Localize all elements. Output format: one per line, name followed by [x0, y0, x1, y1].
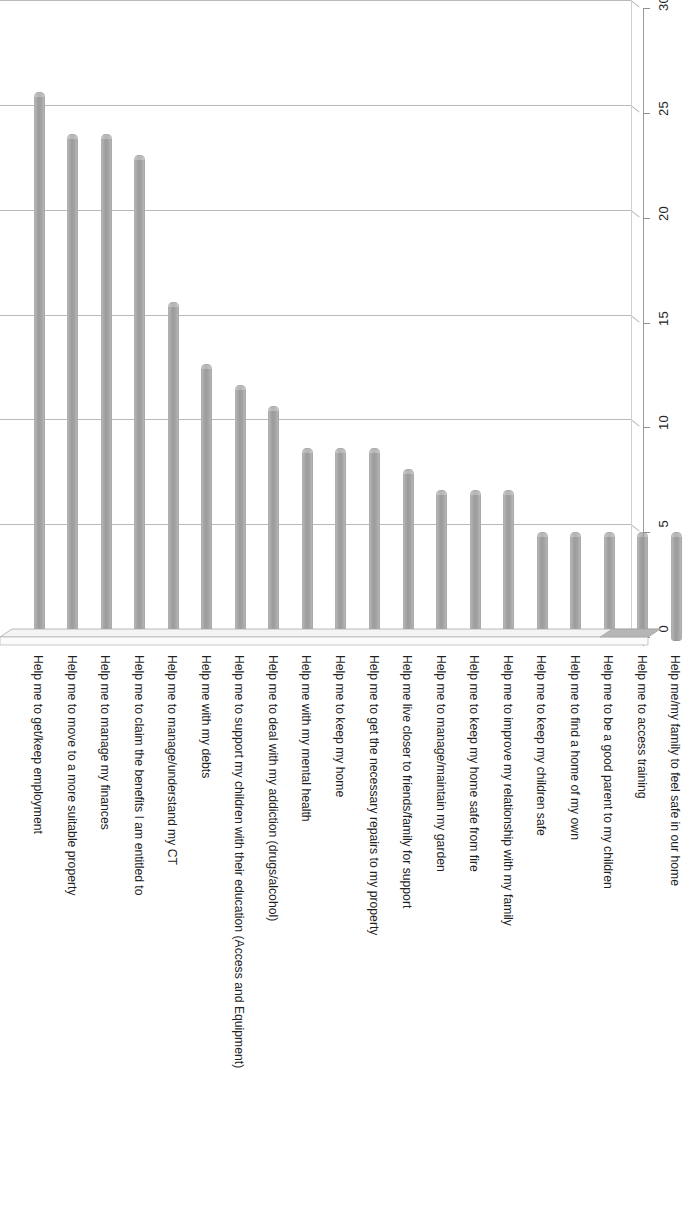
- bar: [604, 532, 615, 641]
- bar: [101, 134, 112, 641]
- gridline-5: [0, 524, 631, 525]
- category-label: Help me to manage my finances: [98, 655, 111, 830]
- category-label: Help me to access training: [635, 655, 648, 799]
- category-label: Help me live closer to friends/family fo…: [400, 655, 413, 908]
- bar: [302, 448, 313, 641]
- gridline-depth-25: [625, 105, 640, 120]
- category-label: Help me to get the necessary repairs to …: [367, 655, 380, 935]
- bar: [470, 490, 481, 641]
- plot-area: 051015202530: [0, 0, 680, 660]
- category-label: Help me to get/keep employment: [31, 655, 44, 834]
- axis-tick-label-10: 10: [656, 415, 671, 430]
- category-label: Help me to find a home of my own: [568, 655, 581, 840]
- category-label: Help me to improve my relationship with …: [501, 655, 514, 926]
- bar: [671, 532, 682, 641]
- axis-tick-label-15: 15: [656, 311, 671, 326]
- gridline-depth-10: [625, 419, 640, 434]
- category-label: Help me to manage/maintain my garden: [434, 655, 447, 872]
- category-axis-labels: Help me to get/keep employmentHelp me to…: [0, 655, 680, 1209]
- bar: [503, 490, 514, 641]
- category-label: Help me to support my children with thei…: [232, 655, 245, 1068]
- axis-tick-5: [643, 532, 650, 533]
- gridline-25: [0, 105, 631, 106]
- gridline-depth-15: [625, 315, 640, 330]
- axis-tick-20: [643, 218, 650, 219]
- axis-tick-label-5: 5: [656, 520, 671, 528]
- category-label: Help me to keep my home: [333, 655, 346, 797]
- bar: [134, 155, 145, 641]
- category-label: Help me to move to a more suitable prope…: [65, 655, 78, 895]
- category-label: Help me to keep my children safe: [534, 655, 547, 836]
- category-label: Help me to claim the benefits I am entit…: [132, 655, 145, 895]
- axis-tick-label-25: 25: [656, 101, 671, 116]
- axis-tick-label-30: 30: [656, 0, 671, 11]
- category-label: Help me to be a good parent to my childr…: [601, 655, 614, 889]
- bar: [436, 490, 447, 641]
- category-label: Help me with my mental health: [299, 655, 312, 822]
- category-label: Help me/my family to feel safe in our ho…: [668, 655, 681, 886]
- category-label: Help me to keep my home safe from fire: [467, 655, 480, 872]
- gridline-15: [0, 315, 631, 316]
- bar: [403, 469, 414, 641]
- category-label: Help me with my debts: [199, 655, 212, 778]
- gridline-30: [0, 0, 631, 1]
- axis-tick-25: [643, 113, 650, 114]
- gridline-20: [0, 210, 631, 211]
- bar: [34, 92, 45, 641]
- bar: [67, 134, 78, 641]
- gridline-10: [0, 419, 631, 420]
- bar: [570, 532, 581, 641]
- axis-tick-30: [643, 8, 650, 9]
- bar: [201, 364, 212, 641]
- gridline-depth-30: [625, 0, 640, 15]
- gridline-depth-20: [625, 210, 640, 225]
- bar: [537, 532, 548, 641]
- bar: [168, 302, 179, 641]
- axis-tick-10: [643, 427, 650, 428]
- category-label: Help me to manage/understand my CT: [165, 655, 178, 865]
- bar: [335, 448, 346, 641]
- chart-floor-3d: [0, 628, 660, 650]
- axis-tick-15: [643, 323, 650, 324]
- value-axis-line: [643, 8, 644, 646]
- value-axis-back-line: [631, 0, 632, 629]
- bar: [369, 448, 380, 641]
- category-label: Help me to deal with my addiction (drugs…: [266, 655, 279, 921]
- bar: [235, 385, 246, 641]
- axis-tick-label-20: 20: [656, 206, 671, 221]
- bar: [268, 406, 279, 641]
